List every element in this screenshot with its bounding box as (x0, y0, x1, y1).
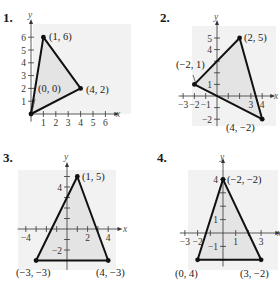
y-tick-label: 3 (21, 71, 26, 81)
y-axis-arrow-icon (65, 162, 69, 167)
vertex-point (41, 35, 46, 40)
y-tick-label: −2 (202, 115, 212, 125)
x-tick-label: 4 (260, 100, 265, 110)
plot-2: −3−2−134−2145xy(−2, 1)(2, 5)(4, −2)2. (160, 10, 279, 134)
y-tick-label: 4 (21, 58, 26, 68)
y-tick-label: 1 (21, 97, 26, 107)
plot-1: 123456123456xy(0, 0)(1, 6)(4, 2)1. (3, 10, 131, 128)
vertex-point (75, 174, 80, 179)
y-tick-label: 4 (57, 183, 62, 193)
x-tick-label: 6 (103, 118, 108, 128)
y-tick-label: 5 (21, 46, 26, 56)
x-tick-label: 4 (78, 118, 83, 128)
y-tick-label: 5 (207, 34, 212, 44)
x-tick-label: −3 (180, 237, 190, 247)
x-tick-label: 3 (66, 118, 71, 128)
vertex-point (259, 257, 264, 262)
x-tick-label: 2 (85, 233, 90, 243)
y-tick-label: −2 (52, 246, 62, 256)
x-tick-label: 1 (41, 118, 46, 128)
y-tick-label: 4 (213, 175, 218, 185)
y-tick-label: 4 (207, 45, 212, 55)
vertex-label: (4, −3) (96, 267, 125, 279)
vertex-label: (−2, −2) (227, 174, 262, 186)
y-tick-label: 1 (213, 215, 218, 225)
vertex-point (106, 258, 111, 263)
x-tick-label: 4 (106, 233, 111, 243)
x-tick-label: −1 (201, 100, 211, 110)
vertex-label: (4, −2) (226, 122, 255, 134)
plot-4: −3−213−114xy(−2, −2)(0, 4)(3, −2)4. (157, 150, 280, 280)
vertex-point (192, 82, 197, 87)
vertex-label: (1, 6) (49, 31, 72, 43)
y-tick-label: −1 (208, 242, 218, 252)
vertex-point (260, 117, 265, 122)
x-tick-label: −3 (178, 100, 188, 110)
y-tick-label: 1 (207, 80, 212, 90)
vertex-point (195, 257, 200, 262)
x-axis-arrow-icon (118, 227, 123, 231)
y-axis-label: y (63, 152, 69, 162)
x-tick-label: 1 (233, 237, 238, 247)
y-axis-label: y (213, 12, 219, 22)
x-tick-label: −4 (21, 233, 31, 243)
vertex-label: (0, 4) (175, 268, 198, 280)
vertex-label: (4, 2) (86, 84, 109, 96)
exercise-number: 4. (157, 150, 167, 165)
vertex-point (29, 112, 34, 117)
vertex-point (78, 86, 83, 91)
x-tick-label: 5 (91, 118, 96, 128)
x-tick-label: 3 (259, 237, 264, 247)
x-axis-label: x (276, 228, 280, 238)
x-axis-label: x (273, 91, 279, 101)
x-axis-label: x (115, 109, 121, 119)
vertex-label: (0, 0) (38, 83, 61, 95)
exercise-number: 1. (3, 10, 13, 25)
vertex-label: (1, 5) (82, 171, 105, 183)
y-axis-label: y (219, 152, 225, 162)
x-tick-label: −2 (189, 100, 199, 110)
x-tick-label: 2 (53, 118, 58, 128)
vertex-point (237, 36, 242, 41)
plot-3: −424−24xy(−3, −3)(1, 5)(4, −3)3. (3, 150, 128, 279)
y-tick-label: 2 (21, 84, 26, 94)
exercise-number: 3. (3, 150, 13, 165)
y-axis-label: y (27, 10, 33, 20)
vertex-label: (2, 5) (244, 32, 267, 44)
exercise-number: 2. (160, 10, 170, 25)
vertex-point (221, 177, 226, 182)
vertex-label: (3, −2) (240, 268, 269, 280)
vertex-label: (−3, −3) (16, 267, 51, 279)
y-tick-label: 6 (21, 33, 26, 43)
x-axis-label: x (122, 224, 128, 234)
triangle-plots-figure: 123456123456xy(0, 0)(1, 6)(4, 2)1.−3−2−1… (0, 0, 280, 283)
x-tick-label: 3 (249, 100, 254, 110)
vertex-label: (−2, 1) (176, 59, 205, 71)
vertex-point (34, 258, 39, 263)
